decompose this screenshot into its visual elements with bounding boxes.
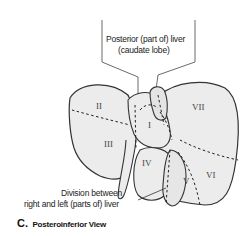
- segment-iv-label: IV: [142, 158, 152, 168]
- figure-caption: C. Posteroinferior View: [17, 213, 106, 231]
- view-letter: C.: [17, 217, 28, 229]
- division-callout-line2: right and left (parts of) liver: [24, 199, 119, 209]
- division-callout-line1: Division between: [61, 188, 122, 198]
- segment-ii-label: II: [96, 101, 102, 111]
- segment-vi-label: VI: [206, 170, 216, 180]
- segment-i-label: I: [148, 120, 151, 130]
- caudate-callout-line1: Posterior (part of) liver: [106, 34, 185, 44]
- segment-vii-label: VII: [192, 102, 205, 112]
- caudate-callout-line2: (caudate lobe): [118, 45, 170, 55]
- view-title: Posteroinferior View: [32, 220, 106, 229]
- liver-diagram: Posterior (part of) liver (caudate lobe)…: [0, 0, 250, 236]
- segment-v-label: V: [183, 176, 190, 186]
- segment-iii-label: III: [104, 139, 113, 149]
